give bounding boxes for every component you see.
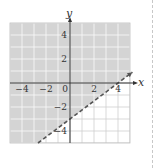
x-tick-label: −2 (39, 84, 52, 94)
x-tick-label: 0 (62, 84, 68, 94)
inequality-graph: −4−202442−2−4 x y (0, 0, 155, 168)
x-tick-label: 2 (91, 84, 97, 94)
x-tick-label: 4 (115, 84, 121, 94)
x-axis-label: x (138, 76, 145, 89)
y-tick-label: −2 (54, 102, 67, 112)
page-edge-divider (152, 0, 153, 168)
y-tick-label: 4 (61, 30, 67, 40)
x-tick-label: −4 (15, 84, 29, 94)
y-tick-label: −4 (54, 126, 68, 136)
y-axis-label: y (65, 7, 73, 20)
y-tick-label: 2 (61, 54, 67, 64)
